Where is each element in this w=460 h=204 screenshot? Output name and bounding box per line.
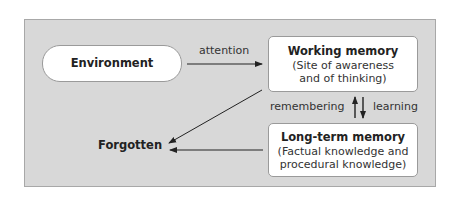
learning-label: learning — [373, 100, 418, 113]
working-memory-title: Working memory — [288, 44, 399, 59]
long-term-memory-node: Long-term memory (Factual knowledge and … — [268, 123, 418, 177]
working-memory-node: Working memory (Site of awareness and of… — [268, 36, 418, 92]
working-memory-subtitle-2: and of thinking) — [299, 72, 386, 85]
long-term-memory-subtitle-1: (Factual knowledge and — [278, 145, 409, 158]
environment-title: Environment — [71, 56, 154, 71]
long-term-memory-subtitle-2: procedural knowledge) — [280, 158, 407, 171]
environment-node: Environment — [42, 45, 182, 82]
attention-label: attention — [199, 44, 249, 57]
wm-to-forgotten-arrow — [169, 90, 262, 143]
forgotten-node: Forgotten — [98, 138, 162, 152]
working-memory-subtitle-1: (Site of awareness — [292, 59, 394, 72]
remembering-label: remembering — [270, 100, 345, 113]
long-term-memory-title: Long-term memory — [281, 130, 405, 145]
